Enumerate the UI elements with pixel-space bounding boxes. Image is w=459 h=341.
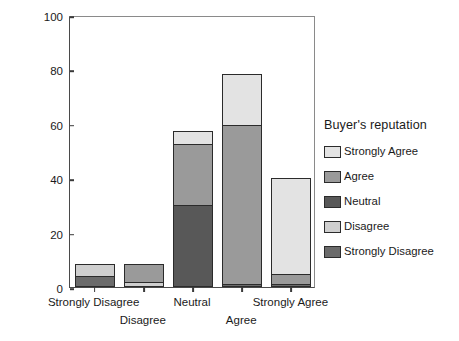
legend-swatch-icon: [324, 246, 341, 258]
bar-segment: [271, 178, 311, 276]
bar-segment: [173, 131, 213, 145]
bar-neutral: [173, 129, 213, 287]
x-tick-mark: [241, 287, 243, 292]
bar-segment: [222, 74, 262, 126]
bar-segment: [75, 276, 115, 287]
bar-segment: [124, 264, 164, 283]
x-tick-label: Disagree: [120, 314, 166, 326]
bar-segment: [173, 205, 213, 287]
x-tick-label: Agree: [226, 314, 257, 326]
bar-strongly-agree: [271, 175, 311, 287]
x-tick-mark: [143, 287, 145, 292]
x-tick-mark: [290, 287, 292, 292]
legend: Buyer's reputation Strongly AgreeAgreeNe…: [324, 118, 456, 270]
legend-item[interactable]: Neutral: [324, 195, 456, 209]
x-tick-mark: [192, 287, 194, 292]
legend-item-label: Disagree: [344, 221, 389, 232]
bars-group: [70, 17, 314, 287]
stacked-bar-chart: Count 020406080100 Strongly DisagreeDisa…: [0, 0, 459, 341]
x-tick-label: Strongly Disagree: [48, 296, 139, 308]
bar-segment: [173, 144, 213, 207]
legend-item[interactable]: Strongly Disagree: [324, 245, 456, 259]
legend-item-label: Strongly Disagree: [344, 246, 434, 257]
x-tick-label: Neutral: [173, 296, 210, 308]
y-tick-label: 0: [57, 283, 70, 295]
legend-item[interactable]: Agree: [324, 170, 456, 184]
bar-segment: [75, 264, 115, 278]
y-tick-label: 100: [44, 11, 70, 23]
y-tick-label: 40: [50, 174, 70, 186]
y-tick-label: 80: [50, 65, 70, 77]
legend-swatch-icon: [324, 146, 341, 158]
legend-items: Strongly AgreeAgreeNeutralDisagreeStrong…: [324, 145, 456, 259]
bar-segment: [222, 125, 262, 285]
legend-item[interactable]: Strongly Agree: [324, 145, 456, 159]
legend-item[interactable]: Disagree: [324, 220, 456, 234]
bar-strongly-disagree: [75, 263, 115, 287]
plot-area: 020406080100: [69, 16, 315, 288]
legend-swatch-icon: [324, 221, 341, 233]
y-tick-label: 60: [50, 120, 70, 132]
x-tick-mark: [94, 287, 96, 292]
legend-item-label: Agree: [344, 171, 374, 182]
legend-item-label: Strongly Agree: [344, 146, 418, 157]
legend-swatch-icon: [324, 171, 341, 183]
legend-swatch-icon: [324, 196, 341, 208]
legend-item-label: Neutral: [344, 196, 380, 207]
bar-disagree: [124, 263, 164, 287]
legend-title: Buyer's reputation: [324, 118, 456, 132]
bar-agree: [222, 72, 262, 287]
y-tick-label: 20: [50, 229, 70, 241]
y-tick-mark: [70, 288, 74, 290]
x-tick-label: Strongly Agree: [253, 296, 328, 308]
